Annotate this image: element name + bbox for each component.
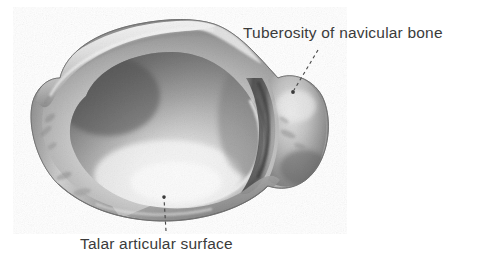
label-talar-articular-surface: Talar articular surface (80, 236, 233, 252)
anatomy-figure: Tuberosity of navicular bone Talar artic… (0, 0, 483, 263)
label-tuberosity-of-navicular-bone: Tuberosity of navicular bone (243, 25, 443, 41)
tuberosity-shadow (280, 150, 328, 186)
cup-highlight-core (130, 162, 222, 202)
navicular-bone-body (31, 20, 328, 222)
leader-endpoint-tuberosity (291, 90, 295, 94)
leader-endpoint-talar (162, 195, 166, 199)
